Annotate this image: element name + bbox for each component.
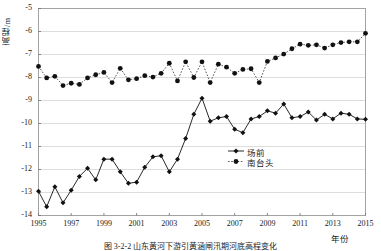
- x-tick-label: 2015: [352, 219, 380, 228]
- x-tick-label: 2001: [123, 219, 151, 228]
- x-tick-label: 2005: [188, 219, 216, 228]
- x-tick-label: 2003: [155, 219, 183, 228]
- y-tick-label: -8: [6, 72, 32, 81]
- legend-marker-layer: [228, 149, 244, 164]
- x-tick-label: 2009: [253, 219, 281, 228]
- y-tick-label: -7: [6, 49, 32, 58]
- y-tick-label: -5: [6, 3, 32, 12]
- x-tick-label: 1999: [90, 219, 118, 228]
- y-tick-label: -6: [6, 26, 32, 35]
- data-series-layer: [36, 31, 368, 209]
- plot-frame: [39, 9, 366, 216]
- x-tick-label: 1995: [25, 219, 53, 228]
- y-tick-label: -10: [6, 118, 32, 127]
- x-tick-label: 2011: [286, 219, 314, 228]
- y-tick-label: -9: [6, 95, 32, 104]
- y-tick-label: -11: [6, 141, 32, 150]
- y-tick-label: -12: [6, 164, 32, 173]
- legend-item-2: 南台头: [247, 156, 274, 168]
- figure-caption: 图 3-2-2 山东黄河下游引黄涵闸汛期河底高程变化: [0, 240, 381, 251]
- x-tick-label: 2007: [221, 219, 249, 228]
- x-tick-label: 2013: [319, 219, 347, 228]
- y-tick-label: -13: [6, 187, 32, 196]
- x-tick-label: 1997: [57, 219, 85, 228]
